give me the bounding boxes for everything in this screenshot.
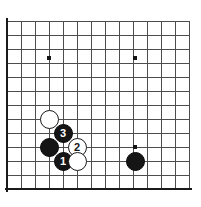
grid-lines <box>7 21 189 189</box>
white-stone-lower[interactable] <box>68 152 87 171</box>
go-board-grid[interactable] <box>0 0 201 207</box>
star-point-lower-right <box>133 145 137 149</box>
go-board-diagram: 321 <box>0 0 201 207</box>
black-stone-right[interactable] <box>126 152 145 171</box>
stone-move-number: 1 <box>60 155 66 166</box>
black-stone-move-3[interactable]: 3 <box>54 124 73 143</box>
stone-move-number: 2 <box>74 141 80 152</box>
black-stone-left[interactable] <box>40 138 59 157</box>
star-point-upper-right <box>133 56 137 60</box>
star-point-upper-left <box>47 56 51 60</box>
white-stone-upper[interactable] <box>40 110 59 129</box>
stone-move-number: 3 <box>60 127 66 138</box>
